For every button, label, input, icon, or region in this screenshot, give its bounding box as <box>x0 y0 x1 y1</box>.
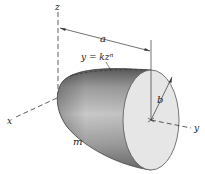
curve-equation-base: y = kz <box>80 52 110 62</box>
z-axis-label: z <box>54 2 60 12</box>
y-axis-label: y <box>193 123 200 133</box>
x-axis-label: x <box>7 116 12 126</box>
x-axis <box>16 98 57 117</box>
mass-label-m: m <box>73 136 82 147</box>
paraboloid-diagram: z x y a b m y = kzn <box>0 0 205 174</box>
radius-label-b: b <box>157 94 163 105</box>
curve-equation-exponent: n <box>110 51 114 58</box>
curve-equation: y = kzn <box>80 51 114 62</box>
length-label-a: a <box>100 33 106 44</box>
